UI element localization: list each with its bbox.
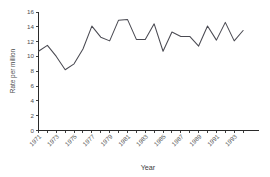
y-tick-label: 14	[27, 23, 34, 30]
data-line-rate-per-million	[39, 19, 244, 69]
x-tick-label: 1981	[117, 132, 132, 147]
x-tick-label: 1973	[46, 132, 61, 147]
y-tick-label: 2	[31, 112, 35, 119]
data-series-group	[39, 19, 244, 69]
x-tick-label: 1985	[152, 132, 167, 147]
x-tick-label: 1989	[188, 132, 203, 147]
y-axis-group: 0246810121416 Rate per million	[9, 8, 39, 133]
x-axis-group: 1971197319751977197919811983198519871989…	[28, 131, 259, 173]
y-tick-label: 0	[31, 127, 35, 134]
x-tick-label: 1993	[223, 132, 238, 147]
x-axis-title: Year	[141, 163, 156, 172]
x-tick-label: 1991	[206, 132, 221, 147]
y-tick-label: 12	[27, 38, 34, 45]
chart-page: 0246810121416 Rate per million 197119731…	[0, 0, 270, 177]
y-tick-label: 4	[31, 97, 35, 104]
x-tick-label: 1971	[28, 132, 43, 147]
y-tick-label: 16	[27, 8, 34, 15]
y-tick-label: 6	[31, 82, 35, 89]
y-tick-label: 8	[31, 67, 35, 74]
line-chart: 0246810121416 Rate per million 197119731…	[0, 0, 270, 177]
x-tick-labels: 1971197319751977197919811983198519871989…	[28, 132, 239, 147]
x-tick-label: 1979	[99, 132, 114, 147]
y-axis-title: Rate per million	[9, 48, 17, 93]
x-tick-label: 1975	[63, 132, 78, 147]
y-tick-label: 10	[27, 52, 34, 59]
y-tick-labels: 0246810121416	[27, 8, 34, 133]
x-tick-label: 1977	[81, 132, 96, 147]
x-tick-label: 1983	[134, 132, 149, 147]
x-tick-label: 1987	[170, 132, 185, 147]
